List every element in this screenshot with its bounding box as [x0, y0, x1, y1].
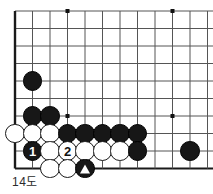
go-board[interactable]: 12: [0, 0, 213, 172]
triangle-marker-icon: [80, 164, 90, 173]
star-point: [171, 114, 175, 118]
white-stone[interactable]: [40, 159, 60, 179]
star-point: [171, 9, 175, 13]
move-number-label: 2: [59, 142, 77, 160]
white-stone[interactable]: [5, 124, 25, 144]
move-number-label: 1: [24, 142, 42, 160]
star-point: [66, 9, 70, 13]
black-stone[interactable]: [75, 159, 95, 179]
black-stone[interactable]: [128, 141, 148, 161]
figure-caption: 14도: [12, 172, 38, 189]
white-stone[interactable]: [40, 141, 60, 161]
white-stone[interactable]: [75, 141, 95, 161]
white-stone[interactable]: [110, 141, 130, 161]
black-stone[interactable]: [180, 141, 200, 161]
star-point: [66, 114, 70, 118]
black-stone[interactable]: [23, 71, 43, 91]
black-stone[interactable]: [40, 106, 60, 126]
go-diagram: 12 14도: [0, 0, 213, 194]
